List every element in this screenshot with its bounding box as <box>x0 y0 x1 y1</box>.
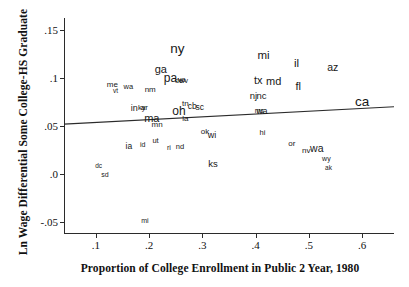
data-point-label-mn: mn <box>152 121 163 129</box>
data-point-label-sd: sd <box>101 171 108 178</box>
data-point-label-mi: mi <box>141 216 148 223</box>
data-point-label-in: in <box>131 104 138 113</box>
data-point-label-nd: nd <box>176 143 184 151</box>
y-tick-label: .0 <box>50 168 58 180</box>
data-point-label-la: la <box>182 115 188 123</box>
data-point-label-nv: nv <box>302 147 310 155</box>
data-point-label-id: id <box>140 140 145 147</box>
x-tick-label: .1 <box>92 239 100 251</box>
y-tick-label: -.05 <box>41 216 58 228</box>
data-point-label-nm: nm <box>145 86 156 94</box>
data-point-label-nc: nc <box>256 91 266 101</box>
data-point-label-wi: wi <box>208 131 217 140</box>
data-point-label-fl: fl <box>295 81 301 92</box>
y-tick-label: .05 <box>44 120 58 132</box>
data-point-label-ny: ny <box>170 42 184 56</box>
data-point-label-ia: ia <box>126 141 133 150</box>
data-point-label-az: az <box>327 62 338 73</box>
x-axis-title: Proportion of College Enrollment in Publ… <box>60 262 380 274</box>
data-point-label-wa: wa <box>310 142 323 153</box>
plot-area: -.05.0.05.1.15 .1.2.3.4.5.6 nymiilazgapa… <box>64 18 394 234</box>
data-point-label-md: md <box>266 76 281 87</box>
data-point-label-mi: mi <box>258 51 270 63</box>
y-axis-title: Ln Wage Differential Some College-HS Gra… <box>14 2 32 262</box>
data-point-label-ri: ri <box>167 143 171 150</box>
x-tick-label: .6 <box>358 239 366 251</box>
data-point-label-vt: vt <box>113 88 118 95</box>
data-point-label-wa: wa <box>124 83 134 91</box>
x-tick-label: .2 <box>145 239 153 251</box>
data-point-label-hi: hi <box>260 129 266 137</box>
data-point-label-tx: tx <box>254 75 263 86</box>
data-point-label-ut: ut <box>152 137 158 145</box>
data-point-label-wv: wv <box>179 77 188 84</box>
data-point-label-sc: sc <box>195 103 204 112</box>
data-point-label-ca: ca <box>355 96 369 110</box>
data-point-label-wa: wa <box>257 107 268 116</box>
data-point-label-dc: dc <box>95 163 102 170</box>
x-tick-label: .3 <box>198 239 206 251</box>
data-point-label-wy: wy <box>322 155 331 162</box>
y-tick-label: .15 <box>44 24 58 36</box>
regression-line <box>64 18 394 234</box>
data-point-label-ak: ak <box>325 165 332 172</box>
data-point-label-ks: ks <box>208 159 218 169</box>
data-point-label-or: or <box>288 140 295 148</box>
x-tick-label: .5 <box>305 239 313 251</box>
data-point-label-il: il <box>294 58 299 70</box>
scatter-plot-figure: Ln Wage Differential Some College-HS Gra… <box>0 0 409 287</box>
x-tick-label: .4 <box>251 239 259 251</box>
y-tick-label: .1 <box>50 72 58 84</box>
